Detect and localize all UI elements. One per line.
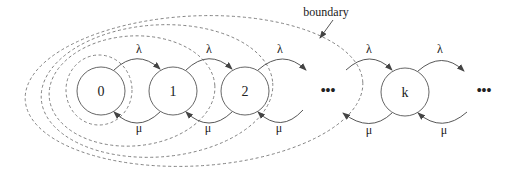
ellipsis-right: ••• [477,83,492,98]
lambda-arc-k-next [418,61,464,72]
ellipsis-middle: ••• [321,83,336,98]
mu-label-k-prev: μ [366,123,372,137]
lambda-arc-0-1 [114,59,160,70]
state-diagram: boundary 0 1 2 k λ λ λ λ λ μ μ μ μ μ [0,0,512,172]
lambda-label-0-1: λ [136,42,142,56]
mu-label-next-2: μ [276,121,282,135]
state-0-label: 0 [98,84,105,99]
lambda-label-prev-k: λ [366,42,372,56]
state-2-label: 2 [242,84,249,99]
boundary-label: boundary [303,5,348,19]
lambda-label-2-next: λ [277,42,283,56]
mu-label-2-1: μ [205,121,211,135]
mu-arc-k-prev [343,113,392,124]
lambda-label-1-2: λ [206,42,212,56]
boundary-pointer-arrow [320,20,333,38]
state-1-label: 1 [170,84,177,99]
lambda-arc-prev-k [346,59,392,70]
mu-label-next-k: μ [441,123,447,137]
state-k-label: k [402,85,409,100]
lambda-label-k-next: λ [437,42,443,56]
diagram-canvas: boundary 0 1 2 k λ λ λ λ λ μ μ μ μ μ [0,0,512,172]
mu-arc-next-k [418,112,467,123]
mu-label-1-0: μ [136,121,142,135]
lambda-arc-2-next [258,59,306,70]
